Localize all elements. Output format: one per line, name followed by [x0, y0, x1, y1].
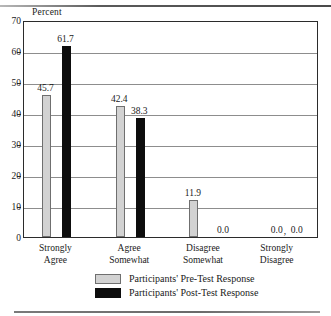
y-axis-tick-mark [17, 83, 21, 84]
bar-value-label: 61.7 [57, 34, 74, 44]
label-separator-comma: , [284, 226, 286, 236]
y-axis-tick-mark [17, 114, 21, 115]
x-axis-category-label: AgreeSomewhat [109, 243, 149, 266]
x-axis-category-label: StronglyDisagree [260, 243, 294, 266]
chart-legend: Participants' Pre-Test ResponseParticipa… [0, 274, 331, 302]
legend-item: Participants' Post-Test Response [0, 288, 331, 302]
x-axis-label-line: Somewhat [183, 255, 223, 267]
legend-swatch-pre-test [95, 274, 121, 284]
bar-value-label: 45.7 [37, 83, 54, 93]
bar-pre-test [189, 200, 198, 237]
y-axis-tick-mark [17, 207, 21, 208]
x-axis-category-label: StronglyAgree [39, 243, 72, 266]
bar-pre-test [116, 106, 125, 237]
y-axis-tick-label: 70 [1, 16, 21, 26]
page-rule-bottom [14, 311, 320, 313]
bar-pre-test [42, 95, 51, 237]
x-axis-label-line: Disagree [260, 255, 294, 267]
y-axis-tick-mark [17, 52, 21, 53]
x-axis-label-line: Strongly [39, 243, 72, 255]
bar-post-test [62, 46, 71, 237]
y-axis-title: Percent [32, 7, 62, 17]
x-axis-label-line: Strongly [260, 243, 294, 255]
bar-value-label: 0.0 [271, 225, 283, 235]
legend-swatch-post-test [95, 288, 121, 298]
x-axis-category-label: DisagreeSomewhat [183, 243, 223, 266]
y-axis-tick-mark [17, 176, 21, 177]
bar-value-label: 42.4 [111, 94, 128, 104]
legend-label: Participants' Post-Test Response [129, 287, 258, 298]
bar-value-label: 38.3 [131, 106, 148, 116]
x-axis-label-line: Somewhat [109, 255, 149, 267]
bar-post-test [136, 118, 145, 237]
y-axis-tick-label: 0 [1, 233, 21, 243]
x-axis-label-line: Agree [109, 243, 149, 255]
bar-value-label: 11.9 [185, 188, 201, 198]
legend-item: Participants' Pre-Test Response [0, 274, 331, 288]
bar-value-label: 0.0 [217, 225, 229, 235]
bar-value-label: 0.0 [291, 225, 303, 235]
y-axis-ticks: 010203040506070 [0, 21, 21, 238]
x-axis-label-line: Disagree [183, 243, 223, 255]
y-axis-tick-mark [17, 145, 21, 146]
plot-area [23, 21, 318, 238]
legend-label: Participants' Pre-Test Response [129, 273, 255, 284]
x-axis-label-line: Agree [39, 255, 72, 267]
